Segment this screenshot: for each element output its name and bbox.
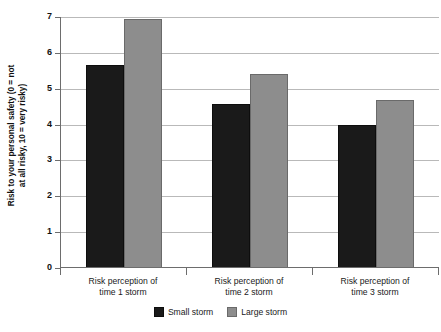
y-axis-title-line2: at all risky, 10 = very risky) — [17, 64, 28, 205]
y-tick-label-7: 7 — [36, 12, 52, 21]
category-label-1: Risk perception oftime 1 storm — [60, 276, 186, 298]
legend-label-large-storm: Large storm — [241, 307, 287, 317]
legend: Small storm Large storm — [0, 307, 441, 317]
bar-large-storm-group-3 — [376, 100, 414, 268]
y-tick-6 — [55, 53, 60, 54]
y-tick-label-2: 2 — [36, 191, 52, 200]
legend-swatch-small-storm — [154, 307, 164, 317]
y-tick-label-1: 1 — [36, 227, 52, 236]
y-axis-title-line1: Risk to your personal safety (0 = not — [7, 64, 17, 205]
category-separator-2 — [312, 268, 313, 275]
plot-area — [60, 17, 439, 268]
y-tick-label-3: 3 — [36, 155, 52, 164]
bar-small-storm-group-2 — [212, 104, 250, 268]
x-axis-line — [61, 267, 439, 268]
y-tick-label-6: 6 — [36, 48, 52, 57]
legend-swatch-large-storm — [227, 307, 237, 317]
bar-large-storm-group-2 — [250, 74, 288, 268]
y-tick-5 — [55, 89, 60, 90]
legend-item-small-storm: Small storm — [154, 307, 213, 317]
gridline-6 — [61, 53, 439, 54]
bar-chart: Risk to your personal safety (0 = not at… — [0, 0, 441, 332]
y-tick-label-0: 0 — [36, 263, 52, 272]
category-separator-3 — [438, 268, 439, 275]
y-tick-label-4: 4 — [36, 120, 52, 129]
y-tick-4 — [55, 125, 60, 126]
y-tick-3 — [55, 160, 60, 161]
category-separator-1 — [186, 268, 187, 275]
bar-large-storm-group-1 — [124, 19, 162, 268]
y-tick-label-5: 5 — [36, 84, 52, 93]
bar-small-storm-group-3 — [338, 125, 376, 268]
y-axis-title: Risk to your personal safety (0 = not at… — [0, 0, 34, 270]
category-separator-0 — [60, 268, 61, 275]
category-label-2: Risk perception oftime 2 storm — [186, 276, 312, 298]
y-tick-2 — [55, 196, 60, 197]
legend-item-large-storm: Large storm — [227, 307, 287, 317]
bar-small-storm-group-1 — [86, 65, 124, 268]
category-label-3: Risk perception oftime 3 storm — [312, 276, 438, 298]
gridline-7 — [61, 17, 439, 18]
legend-label-small-storm: Small storm — [168, 307, 213, 317]
y-tick-1 — [55, 232, 60, 233]
y-tick-7 — [55, 17, 60, 18]
